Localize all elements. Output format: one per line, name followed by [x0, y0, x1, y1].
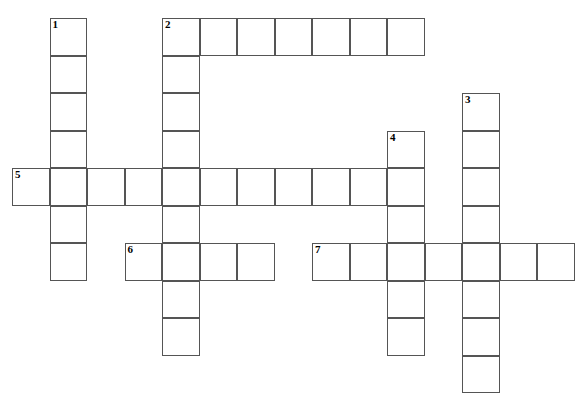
crossword-cell[interactable] — [312, 18, 350, 56]
crossword-cell[interactable] — [200, 243, 238, 281]
crossword-cell[interactable] — [162, 131, 200, 169]
crossword-cell[interactable] — [162, 56, 200, 94]
crossword-cell[interactable] — [462, 356, 500, 393]
crossword-cell[interactable] — [162, 318, 200, 356]
crossword-cell[interactable] — [125, 168, 163, 206]
crossword-cell[interactable] — [162, 281, 200, 319]
crossword-cell[interactable] — [350, 168, 388, 206]
crossword-cell[interactable]: 4 — [387, 131, 425, 169]
crossword-cell[interactable] — [387, 318, 425, 356]
crossword-cell[interactable] — [162, 206, 200, 244]
crossword-cell[interactable] — [200, 168, 238, 206]
clue-number: 5 — [15, 168, 21, 180]
crossword-cell[interactable] — [237, 18, 275, 56]
clue-number: 3 — [465, 93, 471, 105]
crossword-cell[interactable] — [50, 56, 88, 94]
crossword-cell[interactable] — [275, 18, 313, 56]
crossword-cell[interactable] — [462, 131, 500, 169]
crossword-cell[interactable] — [462, 281, 500, 319]
crossword-cell[interactable]: 3 — [462, 93, 500, 131]
crossword-cell[interactable] — [50, 243, 88, 281]
clue-number: 6 — [128, 243, 134, 255]
crossword-cell[interactable] — [50, 93, 88, 131]
clue-number: 2 — [165, 18, 171, 30]
crossword-cell[interactable] — [350, 243, 388, 281]
crossword-cell[interactable] — [162, 93, 200, 131]
crossword-cell[interactable] — [462, 168, 500, 206]
crossword-cell[interactable]: 5 — [12, 168, 50, 206]
crossword-cell[interactable] — [462, 243, 500, 281]
crossword-cell[interactable] — [237, 243, 275, 281]
clue-number: 4 — [390, 131, 396, 143]
crossword-cell[interactable]: 6 — [125, 243, 163, 281]
crossword-cell[interactable] — [387, 281, 425, 319]
crossword-cell[interactable] — [462, 206, 500, 244]
crossword-cell[interactable] — [237, 168, 275, 206]
clue-number: 7 — [315, 243, 321, 255]
crossword-cell[interactable] — [162, 168, 200, 206]
crossword-cell[interactable] — [275, 168, 313, 206]
crossword-cell[interactable] — [387, 206, 425, 244]
crossword-grid[interactable]: 1234567 — [0, 0, 579, 393]
clue-number: 1 — [53, 18, 59, 30]
crossword-cell[interactable] — [350, 18, 388, 56]
crossword-cell[interactable] — [312, 168, 350, 206]
crossword-cell[interactable]: 1 — [50, 18, 88, 56]
crossword-cell[interactable] — [425, 243, 463, 281]
crossword-cell[interactable] — [387, 168, 425, 206]
crossword-cell[interactable] — [50, 168, 88, 206]
crossword-cell[interactable] — [50, 206, 88, 244]
crossword-cell[interactable] — [50, 131, 88, 169]
crossword-cell[interactable] — [87, 168, 125, 206]
crossword-puzzle: 1234567 — [0, 0, 579, 393]
crossword-cell[interactable] — [162, 243, 200, 281]
crossword-cell[interactable] — [200, 18, 238, 56]
crossword-cell[interactable] — [387, 243, 425, 281]
crossword-cell[interactable]: 7 — [312, 243, 350, 281]
crossword-cell[interactable] — [537, 243, 575, 281]
crossword-cell[interactable] — [387, 18, 425, 56]
crossword-cell[interactable] — [500, 243, 538, 281]
crossword-cell[interactable] — [462, 318, 500, 356]
crossword-cell[interactable]: 2 — [162, 18, 200, 56]
